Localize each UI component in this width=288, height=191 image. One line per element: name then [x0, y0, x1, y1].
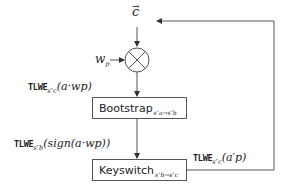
edge-label-bootstrap-to-keyswitch: TLWEs″b(sign(a·wp)) — [14, 134, 110, 150]
weight-label: wp — [95, 53, 109, 65]
edge-label-mult-to-bootstrap: TLWEs″c(a·wp) — [28, 77, 92, 93]
keyswitch-node: Keyswitchs″b→s″c — [92, 159, 187, 181]
bootstrap-node: Bootstraps″a→s″b — [92, 97, 187, 119]
multiply-operator-icon — [125, 48, 149, 72]
edge-label-feedback: TLWEs″c(a′p) — [193, 148, 246, 164]
vector-c-label: →c — [132, 5, 139, 18]
